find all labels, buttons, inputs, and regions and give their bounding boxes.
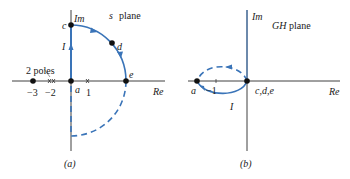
- point-a: [68, 78, 74, 84]
- tick-minus-3: −3: [27, 87, 38, 98]
- plane-word-a: plane: [119, 10, 141, 21]
- tick-minus-1: −1: [206, 85, 217, 96]
- label-c: c: [62, 20, 67, 31]
- plane-word-b: plane: [289, 20, 311, 31]
- label-segment-i-a: I: [61, 41, 66, 52]
- caption-b: (b): [240, 158, 252, 170]
- point-a-b: [194, 78, 200, 84]
- point-d: [109, 40, 115, 46]
- point-cde-b: [244, 78, 250, 84]
- label-a-b: a: [191, 85, 196, 96]
- re-label-a: Re: [152, 86, 164, 97]
- plane-var-b: GH: [272, 20, 287, 31]
- arrow-down-icon: [117, 52, 123, 59]
- tick-minus-2: −2: [45, 87, 56, 98]
- annotation-2-poles: 2 poles: [26, 65, 55, 76]
- panel-b-gh-plane: Im GH plane a −1 c,d,e Re I (b): [188, 10, 340, 170]
- tick-1: 1: [86, 87, 91, 98]
- label-a: a: [75, 84, 80, 95]
- label-segment-i-b: I: [229, 101, 234, 112]
- caption-a: (a): [64, 158, 76, 170]
- nyquist-diagram: Im c s plane d e I 2 poles −3 −2 a 1 Re …: [0, 0, 350, 179]
- label-d: d: [117, 41, 123, 52]
- arrow-left-icon: [225, 65, 232, 70]
- im-label-a: Im: [73, 13, 85, 24]
- im-label-b: Im: [251, 11, 263, 22]
- zero-at-minus-3: [30, 78, 36, 84]
- plane-var-a: s: [109, 10, 113, 21]
- arrow-up-icon: [69, 43, 74, 50]
- re-label-b: Re: [328, 86, 340, 97]
- point-e: [123, 78, 129, 84]
- label-e: e: [129, 69, 134, 80]
- panel-a-s-plane: Im c s plane d e I 2 poles −3 −2 a 1 Re …: [12, 10, 165, 170]
- point-c: [68, 22, 74, 28]
- label-cde: c,d,e: [255, 85, 274, 96]
- contour-solid-lower-b: [197, 81, 247, 93]
- contour-dashed-upper-b: [197, 67, 247, 81]
